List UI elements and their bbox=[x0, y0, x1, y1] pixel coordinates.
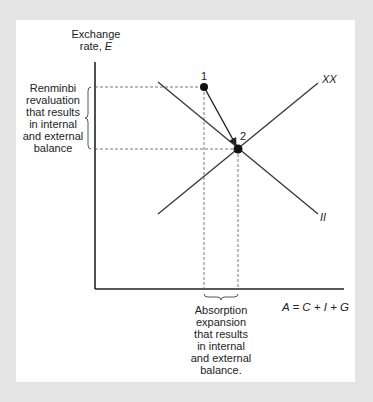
y-axis-label-prefix: rate, bbox=[80, 40, 105, 52]
x-axis-label: A = C + I + G bbox=[282, 301, 362, 313]
point-2 bbox=[234, 145, 243, 154]
page: Exchange rate, E A = C + I + G XX II 1 2… bbox=[0, 0, 373, 402]
renminbi-revaluation-annotation: Renminbi revaluation that results in int… bbox=[18, 82, 88, 154]
curve-ii-label: II bbox=[320, 211, 326, 223]
curve-xx-label: XX bbox=[322, 73, 337, 85]
adjustment-arrow bbox=[204, 87, 236, 145]
point-1-label: 1 bbox=[199, 70, 209, 82]
y-axis-label: Exchange rate, E bbox=[56, 28, 136, 52]
point-1 bbox=[200, 83, 208, 91]
y-axis-label-line2: rate, E bbox=[56, 40, 136, 52]
point-2-label: 2 bbox=[238, 130, 248, 142]
absorption-expansion-annotation: Absorption expansion that results in int… bbox=[181, 304, 261, 376]
y-axis-label-line1: Exchange bbox=[56, 28, 136, 40]
y-axis-variable: E bbox=[105, 40, 112, 52]
horizontal-brace bbox=[204, 294, 238, 300]
